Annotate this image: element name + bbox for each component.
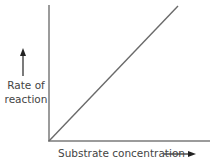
y-axis-label: Rate of reaction [4, 78, 48, 106]
y-arrow-icon [20, 48, 26, 76]
y-label-line2: reaction [4, 92, 48, 106]
data-line [49, 6, 178, 141]
y-label-line1: Rate of [4, 78, 48, 92]
x-axis-label: Substrate concentration [58, 147, 185, 159]
